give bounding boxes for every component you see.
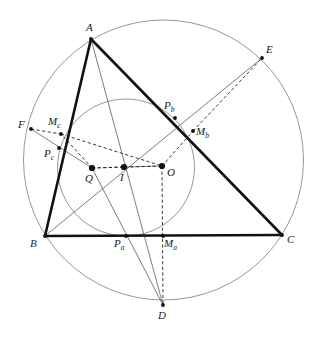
point-E	[260, 56, 264, 60]
dashed-Mb-to-E	[193, 58, 262, 131]
point-C	[280, 233, 284, 237]
point-label-B: B	[30, 238, 37, 249]
points-group	[29, 37, 284, 307]
point-B	[43, 234, 47, 238]
point-D	[161, 303, 165, 307]
point-label-F: F	[18, 119, 25, 130]
point-Mc	[59, 132, 63, 136]
side-CA	[91, 39, 282, 235]
point-label-Ma: Ma	[164, 238, 177, 252]
circles-group	[24, 20, 304, 300]
point-Pb	[173, 116, 177, 120]
point-label-Q: Q	[85, 173, 93, 184]
point-Mb	[191, 129, 195, 133]
point-A	[89, 37, 93, 41]
point-label-A: A	[86, 22, 93, 33]
point-I	[121, 164, 127, 170]
point-F	[29, 127, 33, 131]
point-label-Pa: Pa	[114, 238, 124, 252]
point-label-D: D	[158, 310, 166, 321]
point-Q	[89, 165, 95, 171]
point-label-C: C	[287, 234, 294, 245]
point-label-Pb: Pb	[164, 100, 174, 114]
thin-lines-group	[31, 39, 262, 305]
line-B-through-Pb-to-E	[45, 58, 262, 236]
point-label-Mb: Mb	[196, 126, 209, 140]
point-label-Pc: Pc	[44, 148, 54, 162]
point-Pc	[57, 146, 61, 150]
dashed-Q-to-I	[92, 167, 124, 168]
point-O	[159, 163, 165, 169]
point-label-I: I	[120, 172, 124, 183]
point-label-Mc: Mc	[48, 116, 61, 130]
geometry-figure: A B C D E F I O Q Pa Pb Pc Ma Mb Mc	[0, 0, 315, 338]
circle-circumcircle	[24, 20, 304, 300]
line-D-to-A-through-Pb	[91, 39, 163, 305]
side-AB	[45, 39, 91, 236]
point-Pa	[124, 234, 128, 238]
point-label-E: E	[266, 44, 273, 55]
point-label-O: O	[167, 167, 175, 178]
